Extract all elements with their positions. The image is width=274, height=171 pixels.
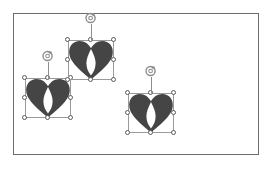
resize-handle-e[interactable] (111, 57, 116, 62)
resize-handle-ne[interactable] (171, 90, 176, 95)
resize-handle-e[interactable] (68, 95, 73, 100)
resize-handle-se[interactable] (111, 77, 116, 82)
rotate-handle-stem (48, 62, 49, 78)
resize-handle-se[interactable] (171, 130, 176, 135)
resize-handle-ne[interactable] (111, 37, 116, 42)
resize-handle-w[interactable] (125, 110, 130, 115)
resize-handle-s[interactable] (88, 77, 93, 82)
resize-handle-nw[interactable] (22, 75, 27, 80)
resize-handle-sw[interactable] (22, 115, 27, 120)
app-root (0, 0, 274, 171)
resize-handle-nw[interactable] (65, 37, 70, 42)
resize-handle-s[interactable] (45, 115, 50, 120)
rotate-icon[interactable] (84, 11, 98, 25)
resize-handle-se[interactable] (68, 115, 73, 120)
rotate-icon[interactable] (144, 64, 158, 78)
resize-handle-sw[interactable] (125, 130, 130, 135)
heart-shape-top[interactable] (68, 40, 114, 80)
heart-shape-left[interactable] (25, 78, 71, 118)
rotate-handle[interactable] (41, 49, 55, 63)
resize-handle-nw[interactable] (125, 90, 130, 95)
resize-handle-s[interactable] (148, 130, 153, 135)
resize-handle-e[interactable] (171, 110, 176, 115)
rotate-icon[interactable] (41, 49, 55, 63)
heart-shape-right[interactable] (128, 93, 174, 133)
rotate-handle-stem (151, 77, 152, 93)
heart-icon (68, 40, 114, 80)
heart-icon (128, 93, 174, 133)
rotate-handle-stem (91, 24, 92, 40)
rotate-handle[interactable] (84, 11, 98, 25)
resize-handle-w[interactable] (65, 57, 70, 62)
rotate-handle[interactable] (144, 64, 158, 78)
resize-handle-sw[interactable] (65, 77, 70, 82)
heart-icon (25, 78, 71, 118)
resize-handle-w[interactable] (22, 95, 27, 100)
